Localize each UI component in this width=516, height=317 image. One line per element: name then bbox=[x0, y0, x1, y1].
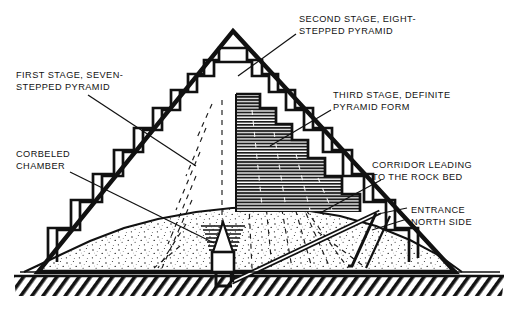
annotation-third-stage-line1: THIRD STAGE, DEFINITE bbox=[333, 90, 451, 100]
bedrock-layer bbox=[14, 276, 504, 297]
annotation-third-stage-line2: PYRAMID FORM bbox=[333, 102, 410, 112]
annotation-corbeled-chamber: CORBELED CHAMBER bbox=[16, 149, 70, 172]
annotation-entrance: ENTRANCE NORTH SIDE bbox=[411, 205, 472, 228]
annotation-first-stage-line2: STEPPED PYRAMID bbox=[16, 82, 110, 92]
annotation-corbeled-chamber-line1: CORBELED bbox=[16, 149, 70, 159]
annotation-entrance-line2: NORTH SIDE bbox=[411, 217, 472, 227]
annotation-corridor-line1: CORRIDOR LEADING bbox=[372, 160, 472, 170]
annotation-first-stage: FIRST STAGE, SEVEN- STEPPED PYRAMID bbox=[16, 70, 123, 93]
annotation-third-stage: THIRD STAGE, DEFINITE PYRAMID FORM bbox=[333, 90, 451, 113]
annotation-second-stage: SECOND STAGE, EIGHT- STEPPED PYRAMID bbox=[299, 14, 416, 37]
annotation-first-stage-line1: FIRST STAGE, SEVEN- bbox=[16, 70, 123, 80]
annotation-corbeled-chamber-line2: CHAMBER bbox=[16, 161, 65, 171]
diagram-canvas bbox=[0, 0, 516, 317]
annotation-corridor-line2: TO THE ROCK BED bbox=[372, 172, 463, 182]
annotation-second-stage-line2: STEPPED PYRAMID bbox=[299, 26, 393, 36]
annotation-entrance-line1: ENTRANCE bbox=[411, 205, 465, 215]
annotation-second-stage-line1: SECOND STAGE, EIGHT- bbox=[299, 14, 416, 24]
pyramid-cross-section-diagram: SECOND STAGE, EIGHT- STEPPED PYRAMID FIR… bbox=[0, 0, 516, 317]
annotation-corridor: CORRIDOR LEADING TO THE ROCK BED bbox=[372, 160, 472, 183]
